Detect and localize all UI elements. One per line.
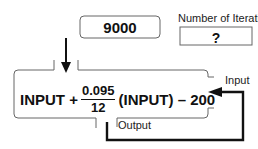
output-label: Output (118, 119, 151, 131)
formula-term-input: INPUT + (20, 91, 78, 108)
fraction-denominator: 12 (91, 100, 105, 115)
formula-term-rest: (INPUT) – 200 (118, 91, 215, 108)
function-formula: INPUT + 0.095 12 (INPUT) – 200 (20, 84, 215, 115)
iterations-value: ? (180, 30, 252, 46)
down-arrow-head-icon (61, 62, 71, 73)
iterations-label: Number of Iterations (178, 12, 258, 24)
input-label: Input (225, 74, 249, 86)
start-value: 9000 (80, 19, 160, 36)
fraction-numerator: 0.095 (81, 84, 116, 100)
formula-fraction: 0.095 12 (81, 84, 116, 115)
